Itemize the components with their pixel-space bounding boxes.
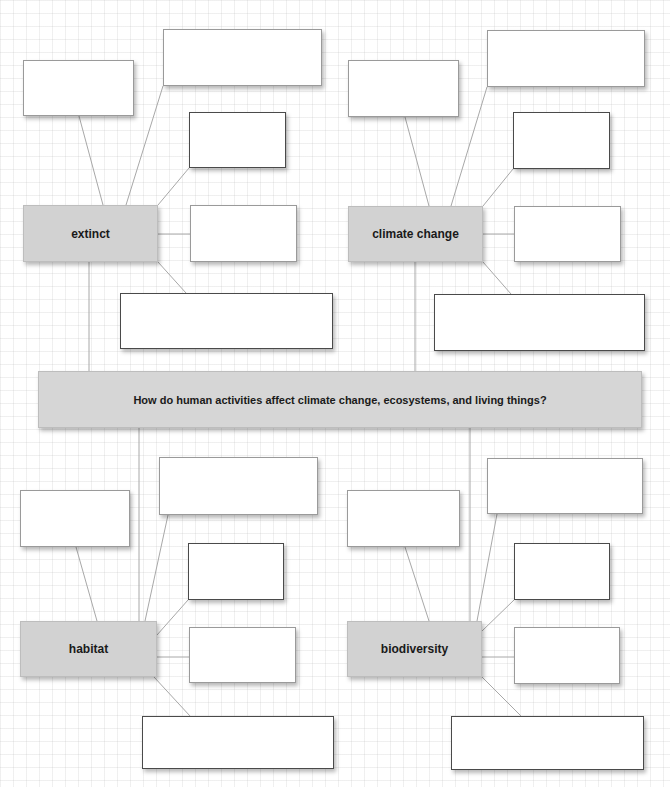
biodiversity-blank-box-3[interactable] [514,543,610,600]
climate-change-node: climate change [348,206,483,262]
biodiversity-blank-box-4[interactable] [514,627,620,684]
climate-change-blank-box-1[interactable] [348,60,459,117]
climate-change-blank-box-4[interactable] [514,206,621,262]
habitat-label: habitat [69,642,108,656]
extinct-node: extinct [23,205,158,262]
biodiversity-node: biodiversity [347,621,482,677]
climate-change-label: climate change [372,227,459,241]
central-question-text: How do human activities affect climate c… [133,394,546,406]
extinct-blank-box-5[interactable] [120,293,333,349]
extinct-blank-box-1[interactable] [23,60,134,116]
climate-change-blank-box-5[interactable] [434,294,645,351]
habitat-blank-box-5[interactable] [142,716,334,769]
habitat-blank-box-3[interactable] [188,543,284,600]
biodiversity-label: biodiversity [381,642,448,656]
habitat-blank-box-4[interactable] [189,627,296,683]
habitat-blank-box-2[interactable] [159,457,318,515]
climate-change-blank-box-3[interactable] [513,112,610,169]
biodiversity-blank-box-5[interactable] [451,716,644,770]
biodiversity-blank-box-2[interactable] [487,458,643,514]
habitat-blank-box-1[interactable] [20,490,130,547]
extinct-label: extinct [71,227,110,241]
biodiversity-blank-box-1[interactable] [347,490,460,547]
extinct-blank-box-3[interactable] [189,112,286,168]
central-question-box: How do human activities affect climate c… [38,371,642,428]
climate-change-blank-box-2[interactable] [487,30,645,87]
extinct-blank-box-2[interactable] [163,29,322,86]
extinct-blank-box-4[interactable] [190,205,297,262]
habitat-node: habitat [20,621,157,677]
